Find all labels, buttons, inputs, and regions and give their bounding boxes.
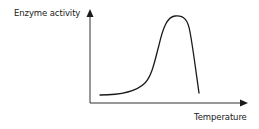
y-axis-arrow-icon <box>87 9 94 17</box>
activity-curve <box>100 16 199 95</box>
x-axis-arrow-icon <box>240 100 248 107</box>
enzyme-activity-chart <box>0 0 259 129</box>
y-axis-label: Enzyme activity <box>14 8 80 18</box>
x-axis-label: Temperature <box>194 112 247 122</box>
